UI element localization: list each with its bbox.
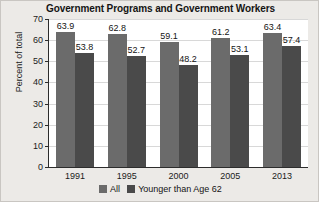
y-tick-mark [45, 104, 49, 105]
y-tick-label: 20 [33, 120, 43, 129]
bar-value-label: 63.9 [57, 21, 75, 31]
x-tick-label: 2013 [272, 171, 292, 181]
bar[interactable]: 57.4 [282, 46, 301, 167]
y-tick-label: 10 [33, 141, 43, 150]
bar[interactable]: 48.2 [179, 65, 198, 167]
bar[interactable]: 63.9 [56, 32, 75, 167]
bar-group: 62.852.71995 [108, 19, 146, 167]
bar-value-label: 59.1 [160, 31, 178, 41]
y-axis-title: Percent of total [14, 7, 24, 117]
bar-value-label: 57.4 [283, 35, 301, 45]
y-tick-label: 0 [38, 163, 43, 172]
x-tick-label: 1991 [65, 171, 85, 181]
legend-item[interactable]: Younger than Age 62 [127, 184, 222, 194]
bar-group: 59.148.22000 [160, 19, 198, 167]
legend-label: All [110, 184, 120, 194]
y-tick-label: 50 [33, 57, 43, 66]
y-tick-mark [45, 125, 49, 126]
plot-area: 010203040506070 63.953.8199162.852.71995… [48, 19, 308, 168]
bar-value-label: 53.8 [76, 42, 94, 52]
legend-item[interactable]: All [99, 184, 120, 194]
legend-label: Younger than Age 62 [138, 184, 222, 194]
bar[interactable]: 53.1 [230, 55, 249, 167]
chart-legend: AllYounger than Age 62 [1, 184, 319, 194]
y-tick-mark [45, 82, 49, 83]
x-tick-label: 2000 [168, 171, 188, 181]
chart-title: Government Programs and Government Worke… [1, 3, 319, 14]
bar-value-label: 48.2 [179, 54, 197, 64]
bar[interactable]: 59.1 [160, 42, 179, 167]
y-tick-mark [45, 167, 49, 168]
bar-value-label: 52.7 [127, 45, 145, 55]
y-tick-label: 40 [33, 78, 43, 87]
y-tick-label: 70 [33, 15, 43, 24]
y-tick-mark [45, 40, 49, 41]
bar[interactable]: 62.8 [108, 34, 127, 167]
bar-value-label: 63.4 [264, 22, 282, 32]
bar-value-label: 62.8 [108, 23, 126, 33]
legend-swatch-icon [127, 185, 135, 193]
x-tick-label: 2005 [220, 171, 240, 181]
bar-group: 63.953.81991 [56, 19, 94, 167]
y-tick-mark [45, 146, 49, 147]
bar-chart-figure: Government Programs and Government Worke… [0, 0, 319, 202]
x-tick-label: 1995 [117, 171, 137, 181]
y-tick-mark [45, 61, 49, 62]
bar[interactable]: 52.7 [127, 56, 146, 167]
y-tick-mark [45, 19, 49, 20]
bar[interactable]: 63.4 [263, 33, 282, 167]
bar-group: 63.457.42013 [263, 19, 301, 167]
y-tick-label: 60 [33, 36, 43, 45]
bar[interactable]: 61.2 [211, 38, 230, 167]
legend-swatch-icon [99, 185, 107, 193]
bar-group: 61.253.12005 [211, 19, 249, 167]
bar[interactable]: 53.8 [75, 53, 94, 167]
bar-value-label: 53.1 [231, 44, 249, 54]
y-tick-label: 30 [33, 99, 43, 108]
bar-value-label: 61.2 [212, 27, 230, 37]
